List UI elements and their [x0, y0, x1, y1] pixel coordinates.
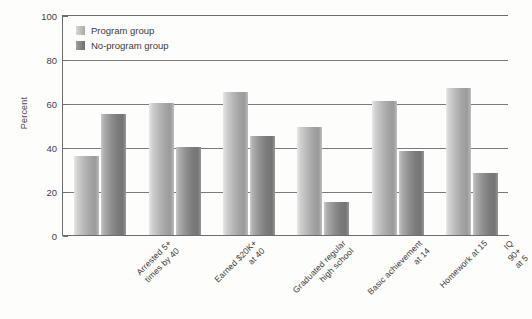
bar	[250, 136, 275, 235]
x-tick-label: Basic achievement at 14	[366, 238, 433, 305]
bar	[101, 114, 126, 235]
bar	[74, 156, 99, 235]
bar	[372, 101, 397, 235]
x-axis-labels: Arrested 5+ times by 40Earned $20K+ at 4…	[62, 238, 508, 319]
bar	[446, 88, 471, 235]
chart-legend: Program group No-program group	[76, 24, 169, 54]
bar-chart: Percent 020406080100 Arrested 5+ times b…	[0, 0, 532, 319]
legend-label: No-program group	[91, 40, 169, 51]
bar	[223, 92, 248, 235]
y-axis-title: Percent	[19, 73, 29, 153]
x-tick-label: IQ 90+ at 5	[497, 238, 530, 271]
legend-item-program-group: Program group	[76, 24, 169, 37]
x-axis-line	[62, 235, 509, 236]
y-tick-label: 40	[46, 143, 63, 154]
legend-item-no-program-group: No-program group	[76, 39, 169, 52]
x-tick-label: Graduated regular high school	[291, 238, 356, 303]
bar	[473, 173, 498, 235]
bar	[324, 202, 349, 235]
y-tick-label: 20	[46, 187, 63, 198]
y-tick-mark	[63, 236, 68, 237]
bar	[149, 103, 174, 235]
y-tick-label: 80	[46, 55, 63, 66]
x-tick-label: Arrested 5+ times by 40	[134, 238, 181, 285]
y-tick-label: 100	[41, 11, 63, 22]
legend-label: Program group	[91, 25, 154, 36]
x-tick-label: Earned $20K+ at 40	[212, 238, 266, 292]
x-tick-label: Homework at 15	[437, 238, 489, 290]
bar	[297, 127, 322, 235]
y-tick-label: 60	[46, 99, 63, 110]
bar	[176, 147, 201, 235]
legend-swatch-icon	[76, 41, 85, 50]
legend-swatch-icon	[76, 26, 85, 35]
bar	[399, 151, 424, 235]
